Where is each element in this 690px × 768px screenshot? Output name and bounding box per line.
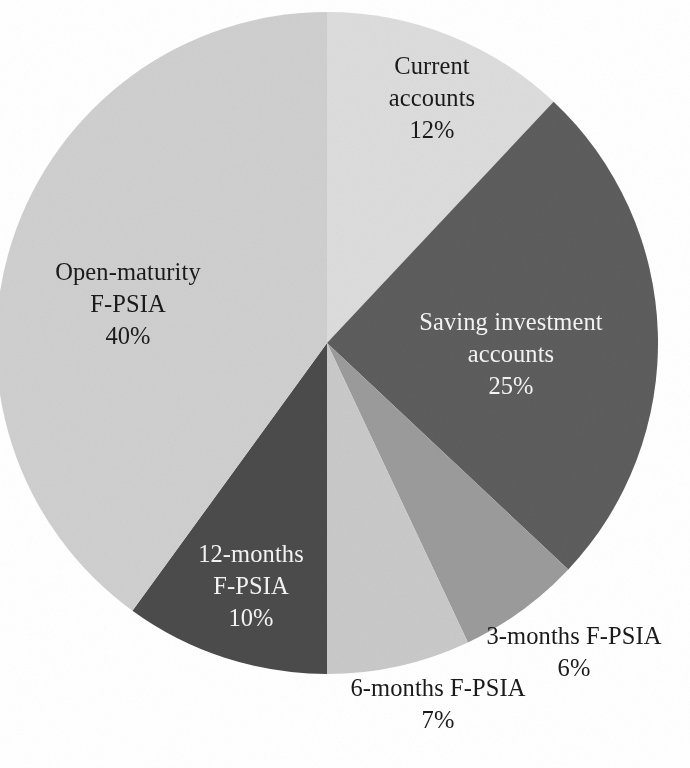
pie-chart-figure: Current accounts 12% Saving investment a… (0, 0, 690, 768)
pie-slices-group (0, 12, 658, 674)
pie-chart-svg (0, 0, 690, 768)
